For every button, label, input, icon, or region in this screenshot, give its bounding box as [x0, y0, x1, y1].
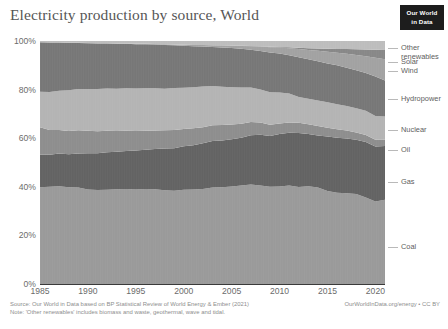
texture-line	[102, 41, 103, 284]
plot-area[interactable]	[40, 41, 385, 284]
legend-item-hydropower[interactable]: Hydropower	[401, 95, 441, 104]
texture-line	[297, 41, 298, 284]
texture-line	[287, 41, 288, 284]
texture-line	[340, 41, 341, 284]
texture-line	[364, 41, 365, 284]
stacked-area-svg	[40, 41, 385, 284]
texture-line	[333, 41, 334, 284]
texture-line	[371, 41, 372, 284]
texture-line	[210, 41, 211, 284]
texture-line	[155, 41, 156, 284]
texture-line	[45, 41, 46, 284]
texture-line	[290, 41, 291, 284]
texture-line	[357, 41, 358, 284]
texture-line	[98, 41, 99, 284]
texture-line	[50, 41, 51, 284]
texture-line	[114, 41, 115, 284]
texture-line	[254, 41, 255, 284]
texture-line	[134, 41, 135, 284]
texture-line	[90, 41, 91, 284]
legend-item-label: Oil	[401, 146, 410, 155]
y-axis-tick: 60%	[0, 133, 36, 143]
x-axis-tick: 1995	[126, 286, 145, 296]
texture-line	[129, 41, 130, 284]
texture-line	[278, 41, 279, 284]
legend-connector	[388, 182, 398, 183]
texture-line	[378, 41, 379, 284]
texture-line	[309, 41, 310, 284]
footer-source-line: Source: Our World in Data based on BP St…	[10, 300, 249, 308]
legend-item-label: Gas	[401, 178, 415, 187]
texture-line	[146, 41, 147, 284]
texture-line	[326, 41, 327, 284]
legend-item-wind[interactable]: Wind	[401, 67, 418, 76]
texture-line	[270, 41, 271, 284]
texture-line	[225, 41, 226, 284]
texture-line	[100, 41, 101, 284]
texture-line	[148, 41, 149, 284]
footer-attribution[interactable]: OurWorldInData.org/energy • CC BY	[344, 300, 440, 308]
texture-line	[220, 41, 221, 284]
legend-connector	[388, 62, 398, 63]
texture-line	[186, 41, 187, 284]
texture-line	[105, 41, 106, 284]
owid-logo[interactable]: Our World in Data	[400, 5, 444, 30]
legend-item-label: Nuclear	[401, 126, 426, 135]
texture-line	[354, 41, 355, 284]
y-axis-tick: 100%	[0, 36, 36, 46]
texture-line	[311, 41, 312, 284]
texture-line	[369, 41, 370, 284]
texture-line	[177, 41, 178, 284]
texture-line	[338, 41, 339, 284]
texture-line	[162, 41, 163, 284]
texture-line	[376, 41, 377, 284]
texture-line	[347, 41, 348, 284]
texture-line	[174, 41, 175, 284]
legend-item-coal[interactable]: Coal	[401, 243, 416, 252]
legend-item-oil[interactable]: Oil	[401, 146, 410, 155]
texture-line	[201, 41, 202, 284]
x-axis-tick: 1985	[30, 286, 49, 296]
texture-line	[244, 41, 245, 284]
legend-item-nuclear[interactable]: Nuclear	[401, 126, 426, 135]
texture-line	[314, 41, 315, 284]
texture-line	[383, 41, 384, 284]
texture-line	[189, 41, 190, 284]
texture-line	[213, 41, 214, 284]
texture-line	[52, 41, 53, 284]
texture-line	[218, 41, 219, 284]
chart-root: Electricity production by source, World …	[0, 0, 448, 329]
texture-line	[321, 41, 322, 284]
texture-line	[352, 41, 353, 284]
texture-line	[268, 41, 269, 284]
texture-line	[232, 41, 233, 284]
texture-line	[170, 41, 171, 284]
legend-item-label: Coal	[401, 243, 416, 252]
texture-line	[237, 41, 238, 284]
texture-line	[234, 41, 235, 284]
texture-line	[350, 41, 351, 284]
texture-line	[249, 41, 250, 284]
texture-line	[381, 41, 382, 284]
texture-line	[345, 41, 346, 284]
texture-line	[215, 41, 216, 284]
texture-line	[124, 41, 125, 284]
legend-item-gas[interactable]: Gas	[401, 178, 415, 187]
texture-line	[182, 41, 183, 284]
texture-line	[83, 41, 84, 284]
texture-line	[261, 41, 262, 284]
texture-line	[150, 41, 151, 284]
texture-line	[57, 41, 58, 284]
owid-logo-line2: in Data	[411, 18, 432, 26]
texture-line	[280, 41, 281, 284]
texture-line	[273, 41, 274, 284]
texture-line	[110, 41, 111, 284]
texture-line	[203, 41, 204, 284]
texture-line	[126, 41, 127, 284]
texture-line	[227, 41, 228, 284]
x-axis-tick: 1990	[78, 286, 97, 296]
texture-line	[208, 41, 209, 284]
texture-line	[107, 41, 108, 284]
texture-line	[95, 41, 96, 284]
owid-logo-line1: Our World	[406, 9, 437, 17]
